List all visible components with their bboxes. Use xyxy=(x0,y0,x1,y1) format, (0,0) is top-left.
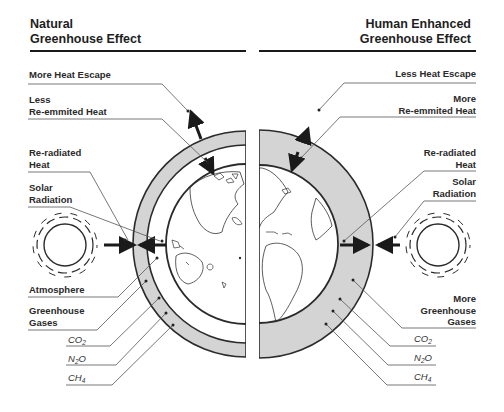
right-reradiated-line1: Re-radiated xyxy=(424,147,476,159)
left-heat-escape-text: More Heat Escape xyxy=(29,69,111,80)
left-label-reradiated: Re-radiated Heat xyxy=(29,147,81,170)
left-ghg-line1: Greenhouse xyxy=(29,305,84,317)
right-gas-n2o: N2O xyxy=(414,352,432,364)
right-gas-co2: CO2 xyxy=(414,333,432,345)
left-solar-line2: Radiation xyxy=(29,194,72,206)
right-heat-escape-text: Less Heat Escape xyxy=(395,68,476,79)
left-ghg-line2: Gases xyxy=(29,317,84,329)
left-label-heat-escape: More Heat Escape xyxy=(29,69,111,81)
left-gas-n2o: N2O xyxy=(68,353,86,365)
left-label-reemitted: Less Re-emmited Heat xyxy=(29,94,107,117)
left-reradiated-line2: Heat xyxy=(29,159,81,171)
right-sun xyxy=(406,213,470,277)
left-title-line1: Natural xyxy=(30,17,141,32)
right-label-ghg: More Greenhouse Gases xyxy=(421,293,476,328)
left-reemitted-line1: Less xyxy=(29,94,107,106)
right-solar-line2: Radiation xyxy=(433,188,476,200)
right-label-reradiated: Re-radiated Heat xyxy=(424,147,476,170)
left-title-line2: Greenhouse Effect xyxy=(30,32,141,47)
left-solar-line1: Solar xyxy=(29,182,72,194)
greenhouse-diagram xyxy=(0,0,504,412)
left-label-solar: Solar Radiation xyxy=(29,182,72,205)
right-ghg-line1: More xyxy=(421,293,476,305)
right-panel-title: Human Enhanced Greenhouse Effect xyxy=(360,17,471,47)
left-gas-co2: CO2 xyxy=(68,334,86,346)
left-sun xyxy=(33,213,97,277)
right-reemitted-line1: More xyxy=(398,93,476,105)
left-reemitted-line2: Re-emmited Heat xyxy=(29,106,107,118)
left-label-ghg: Greenhouse Gases xyxy=(29,305,84,328)
right-reemitted-line2: Re-emmited Heat xyxy=(398,105,476,117)
left-gas-ch4: CH4 xyxy=(68,372,85,384)
right-reradiated-line2: Heat xyxy=(424,159,476,171)
left-atmosphere-text: Atmosphere xyxy=(29,284,84,295)
left-panel-title: Natural Greenhouse Effect xyxy=(30,17,141,47)
right-label-solar: Solar Radiation xyxy=(433,176,476,199)
left-label-atmosphere: Atmosphere xyxy=(29,284,84,296)
right-solar-line1: Solar xyxy=(433,176,476,188)
right-gas-ch4: CH4 xyxy=(414,371,431,383)
right-label-heat-escape: Less Heat Escape xyxy=(395,68,476,80)
right-title-line1: Human Enhanced xyxy=(360,17,471,32)
right-ghg-line2: Greenhouse xyxy=(421,305,476,317)
right-label-reemitted: More Re-emmited Heat xyxy=(398,93,476,116)
right-title-line2: Greenhouse Effect xyxy=(360,32,471,47)
left-reradiated-line1: Re-radiated xyxy=(29,147,81,159)
right-ghg-line3: Gases xyxy=(421,316,476,328)
